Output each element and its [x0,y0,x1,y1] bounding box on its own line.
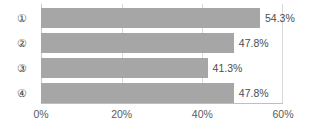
bar-3[interactable] [41,58,208,78]
category-label-4: ④ [8,81,36,106]
bar-value-4: 47.8% [234,83,269,103]
bar-row: 47.8% [41,31,283,56]
category-label-1: ① [8,6,36,31]
xtick-label-0: 0% [16,108,66,120]
category-label-2: ② [8,31,36,56]
bar-value-2: 47.8% [234,33,269,53]
xtick-label-60: 60% [258,108,308,120]
bar-chart: 54.3% 47.8% 41.3% 47.8% ① ② ③ ④ 0% 20% 4… [0,0,315,134]
x-axis-line [41,103,283,104]
bar-2[interactable] [41,33,234,53]
plot-area: 54.3% 47.8% 41.3% 47.8% [41,4,283,104]
bar-value-3: 41.3% [208,58,243,78]
bar-value-1: 54.3% [260,8,295,28]
xtick-label-40: 40% [177,108,227,120]
xtick-label-20: 20% [97,108,147,120]
bar-4[interactable] [41,83,234,103]
bar-1[interactable] [41,8,260,28]
bar-row: 41.3% [41,56,283,81]
bar-row: 54.3% [41,6,283,31]
category-label-3: ③ [8,56,36,81]
